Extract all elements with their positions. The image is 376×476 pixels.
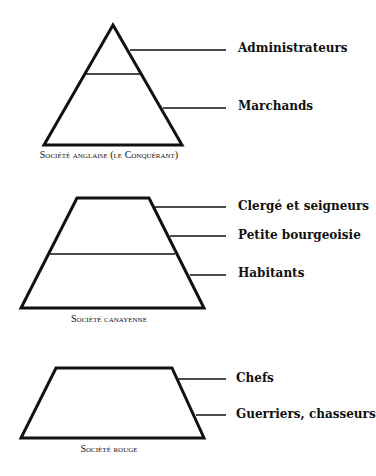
caption-societe-anglaise: Société anglaise (le Conquérant) xyxy=(14,149,204,160)
caption-societe-rouge: Société rouge xyxy=(14,443,204,454)
label-chefs: Chefs xyxy=(236,371,274,385)
label-petite-bourgeoisie: Petite bourgeoisie xyxy=(238,228,361,242)
pyramid-canayenne xyxy=(21,198,226,308)
label-administrateurs: Administrateurs xyxy=(238,41,348,55)
caption-societe-canayenne: Société canayenne xyxy=(14,313,204,324)
label-clerge-seigneurs: Clergé et seigneurs xyxy=(238,199,369,213)
label-guerriers-chasseurs: Guerriers, chasseurs xyxy=(236,407,376,421)
label-habitants: Habitants xyxy=(238,266,304,280)
label-marchands: Marchands xyxy=(238,99,313,113)
pyramid-rouge xyxy=(21,368,226,438)
pyramid-anglaise xyxy=(44,25,226,145)
